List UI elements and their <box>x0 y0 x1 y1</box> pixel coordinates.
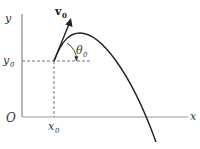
angle-subscript: 0 <box>83 51 88 59</box>
x0-label: x <box>48 120 55 133</box>
velocity-vector <box>54 24 69 61</box>
y0-subscript: 0 <box>10 61 15 69</box>
y-axis-label: y <box>4 12 12 25</box>
x0-subscript: 0 <box>55 127 60 135</box>
angle-label: θ <box>76 44 83 57</box>
velocity-label: v <box>54 5 62 18</box>
velocity-subscript: 0 <box>62 11 67 20</box>
origin-label: O <box>6 111 16 125</box>
y0-label: y <box>2 54 10 67</box>
trajectory-curve <box>54 33 156 142</box>
projectile-diagram: y x O y 0 x 0 v 0 θ 0 <box>0 0 200 149</box>
x-axis-label: x <box>190 110 197 123</box>
